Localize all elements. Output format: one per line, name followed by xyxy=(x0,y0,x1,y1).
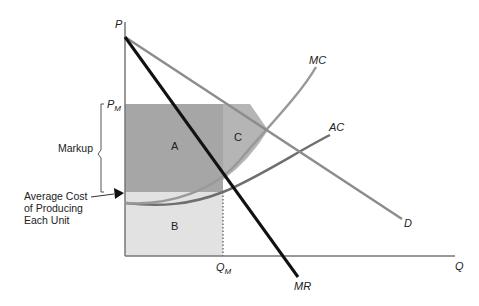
monopoly-diagram: P Q PM QM MC AC D MR A B C Markup Averag… xyxy=(0,0,479,306)
markup-brace xyxy=(98,104,104,192)
region-a-label: A xyxy=(171,140,179,152)
region-b-label: B xyxy=(171,220,178,232)
pm-label: PM xyxy=(107,98,121,113)
y-axis-label: P xyxy=(115,18,123,30)
demand-label: D xyxy=(404,217,412,229)
avg-cost-arrowhead xyxy=(114,188,124,199)
mr-label: MR xyxy=(294,280,311,292)
qm-label: QM xyxy=(216,261,232,276)
avg-cost-arrow-line xyxy=(91,194,114,197)
markup-label: Markup xyxy=(58,142,93,154)
ac-label: AC xyxy=(328,121,344,133)
avg-cost-label-3: Each Unit xyxy=(24,214,70,226)
x-axis-label: Q xyxy=(455,260,464,272)
avg-cost-label-1: Average Cost xyxy=(24,190,88,202)
avg-cost-label-2: of Producing xyxy=(24,202,83,214)
region-c-label: C xyxy=(234,131,242,143)
mc-label: MC xyxy=(309,54,326,66)
